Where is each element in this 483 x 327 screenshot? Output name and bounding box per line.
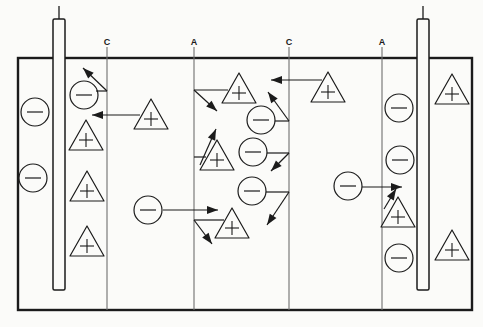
- arrowhead: [92, 111, 103, 119]
- figure-electrodialysis-diagram: CACA: [0, 0, 483, 327]
- arrowhead: [271, 76, 282, 84]
- right-electrode: [417, 19, 429, 290]
- anion-exchange-membrane-label: A: [379, 37, 386, 47]
- left-electrode: [53, 19, 65, 290]
- anion-exchange-membrane-label: A: [191, 37, 198, 47]
- arrowhead: [267, 214, 276, 225]
- cation-exchange-membrane-label: C: [286, 37, 293, 47]
- arrowhead: [202, 233, 212, 244]
- arrowhead: [268, 92, 278, 103]
- arrowhead: [391, 183, 402, 191]
- diagram-canvas: CACA: [0, 0, 483, 327]
- arrowhead: [208, 129, 216, 141]
- cation-exchange-membrane-label: C: [104, 37, 111, 47]
- arrowhead: [207, 206, 218, 214]
